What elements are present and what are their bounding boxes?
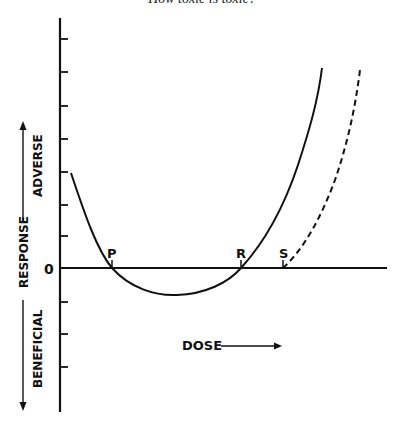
- arrow-down-icon: [20, 402, 27, 411]
- dose-arrow-head-icon: [274, 343, 282, 350]
- label-p: P: [107, 246, 117, 261]
- y-label-beneficial: BENEFICIAL: [31, 309, 45, 388]
- y-zero-label: 0: [44, 261, 54, 277]
- y-label-adverse: ADVERSE: [31, 134, 45, 197]
- dose-response-chart: 0 P R S DOSE RESPONSE ADVERSE BENEFICIAL: [0, 0, 404, 429]
- solid-dose-response-curve: [71, 68, 322, 295]
- label-s: S: [279, 246, 288, 261]
- dashed-dose-response-curve: [283, 70, 360, 268]
- label-r: R: [236, 246, 246, 261]
- y-axis-label-response: RESPONSE: [17, 216, 31, 288]
- x-axis-label-dose: DOSE: [182, 338, 222, 353]
- y-ticks: [60, 39, 68, 367]
- arrow-up-icon: [20, 121, 27, 130]
